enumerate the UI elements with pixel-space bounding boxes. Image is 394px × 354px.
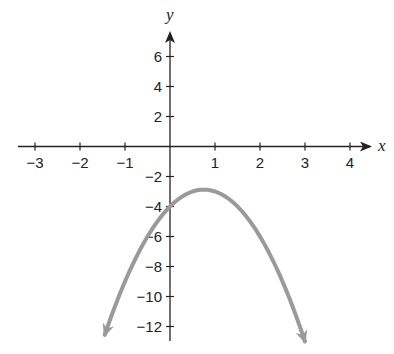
y-tick-label: −10 [137, 288, 162, 305]
x-tick-label: 4 [346, 154, 354, 171]
y-tick-label: 2 [154, 108, 162, 125]
parabola-curve [105, 190, 305, 342]
x-tick-label: 3 [301, 154, 309, 171]
y-tick-label: −4 [145, 198, 162, 215]
axes [18, 33, 370, 341]
curve-left-arrow [105, 328, 107, 335]
y-tick-label: −2 [145, 168, 162, 185]
x-tick-label: −3 [26, 154, 43, 171]
x-tick-label: −2 [71, 154, 88, 171]
x-axis-label: x [377, 136, 386, 155]
y-tick-label: −8 [145, 258, 162, 275]
x-tick-label: 1 [211, 154, 219, 171]
x-tick-label: −1 [116, 154, 133, 171]
y-tick-label: 4 [154, 78, 162, 95]
y-tick-label: 6 [154, 48, 162, 65]
x-tick-label: 2 [256, 154, 264, 171]
parabola-graph: −3−2−11234642−2−4−6−8−10−12 x y [0, 0, 394, 354]
y-tick-label: −12 [137, 318, 162, 335]
y-axis-label: y [164, 5, 174, 24]
